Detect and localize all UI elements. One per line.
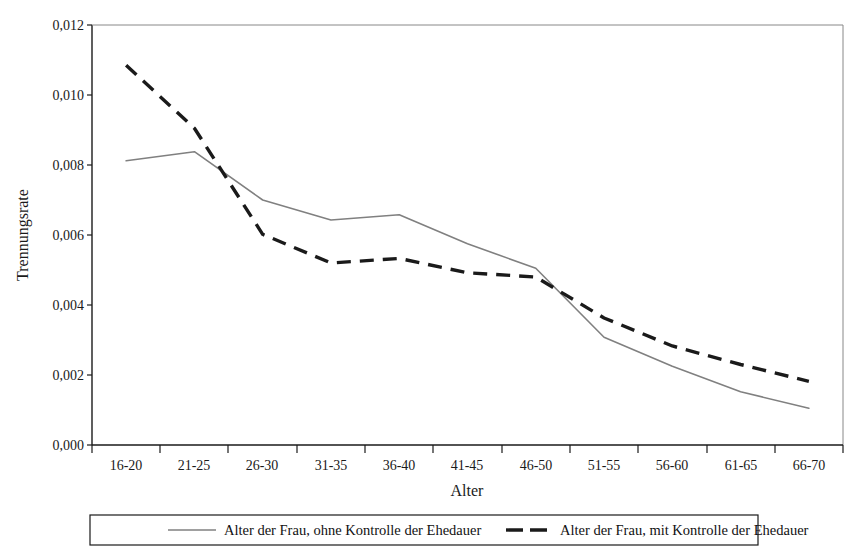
series-line-mit-kontrolle	[126, 65, 809, 381]
y-tick-label: 0,008	[53, 158, 85, 173]
x-tick-label: 56-60	[656, 458, 689, 473]
x-axis-ticks	[92, 445, 843, 453]
y-tick-label: 0,004	[53, 298, 85, 313]
x-tick-label: 66-70	[793, 458, 826, 473]
x-tick-label: 36-40	[383, 458, 416, 473]
legend-label-ohne-kontrolle: Alter der Frau, ohne Kontrolle der Eheda…	[224, 522, 481, 538]
legend: Alter der Frau, ohne Kontrolle der Eheda…	[90, 515, 809, 545]
x-tick-label: 46-50	[520, 458, 553, 473]
x-tick-label: 61-65	[725, 458, 758, 473]
x-tick-label: 41-45	[451, 458, 484, 473]
line-chart: 0,012 0,010 0,008 0,006 0,004 0,002 0,00…	[0, 0, 861, 550]
y-tick-label: 0,002	[53, 368, 85, 383]
series-line-ohne-kontrolle	[126, 152, 809, 409]
x-tick-label: 21-25	[178, 458, 211, 473]
series-lines	[126, 65, 809, 408]
plot-frame	[92, 25, 843, 445]
y-axis-ticks	[87, 25, 92, 445]
chart-container: 0,012 0,010 0,008 0,006 0,004 0,002 0,00…	[0, 0, 861, 550]
y-tick-label: 0,012	[53, 18, 85, 33]
y-axis-tick-labels: 0,012 0,010 0,008 0,006 0,004 0,002 0,00…	[53, 18, 85, 453]
y-axis-title: Trennungsrate	[14, 189, 32, 281]
x-tick-label: 51-55	[588, 458, 621, 473]
x-tick-label: 31-35	[315, 458, 348, 473]
x-tick-label: 16-20	[110, 458, 143, 473]
x-axis-tick-labels: 16-20 21-25 26-30 31-35 36-40 41-45 46-5…	[110, 458, 826, 473]
y-tick-label: 0,010	[53, 88, 85, 103]
y-tick-label: 0,006	[53, 228, 85, 243]
y-tick-label: 0,000	[53, 438, 85, 453]
x-tick-label: 26-30	[246, 458, 279, 473]
legend-label-mit-kontrolle: Alter der Frau, mit Kontrolle der Ehedau…	[560, 522, 809, 538]
x-axis-title: Alter	[451, 482, 485, 499]
